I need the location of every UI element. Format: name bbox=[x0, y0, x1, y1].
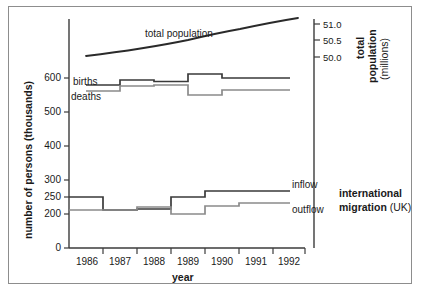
left-tick-600: 600 bbox=[35, 73, 61, 83]
annotation-migration-line1: international bbox=[339, 188, 402, 199]
bottom-axis-ticks bbox=[103, 248, 305, 254]
annotation-outflow: outflow bbox=[292, 205, 324, 215]
right-axis-ticks bbox=[314, 24, 320, 57]
right-tick-51-0: 51.0 bbox=[323, 20, 342, 30]
migration-word: migration bbox=[339, 201, 387, 213]
x-tick-1988: 1988 bbox=[139, 257, 169, 267]
left-tick-400: 400 bbox=[35, 141, 61, 151]
left-tick-250: 250 bbox=[35, 192, 61, 202]
annotation-deaths: deaths bbox=[71, 92, 101, 102]
annotation-inflow: inflow bbox=[292, 180, 318, 190]
chart-plot-area bbox=[9, 7, 413, 285]
series-inflow bbox=[69, 191, 290, 210]
x-tick-1990: 1990 bbox=[207, 257, 237, 267]
right-axis-title-line3: (millions) bbox=[379, 38, 390, 80]
x-tick-1991: 1991 bbox=[241, 257, 271, 267]
annotation-migration-line2: migration (UK) bbox=[339, 202, 411, 213]
x-tick-1992: 1992 bbox=[274, 257, 304, 267]
right-axis-title-line1: total bbox=[355, 37, 366, 59]
right-tick-50-0: 50.0 bbox=[323, 53, 342, 63]
left-tick-0: 0 bbox=[35, 243, 61, 253]
right-axis-title-line2: population bbox=[367, 29, 378, 83]
left-tick-500: 500 bbox=[35, 107, 61, 117]
left-axis-ticks bbox=[64, 78, 69, 248]
right-tick-50-5: 50.5 bbox=[323, 36, 342, 46]
left-axis-title: number of persons (thousands) bbox=[23, 81, 34, 239]
chart-figure: 600 500 400 300 250 200 0 number of pers… bbox=[8, 6, 412, 284]
annotation-total-population: total population bbox=[145, 29, 213, 39]
x-tick-1986: 1986 bbox=[72, 257, 102, 267]
x-axis-title: year bbox=[172, 272, 194, 283]
migration-country: (UK) bbox=[387, 201, 412, 213]
x-tick-1989: 1989 bbox=[173, 257, 203, 267]
series-deaths bbox=[86, 85, 290, 95]
series-births bbox=[86, 74, 290, 85]
x-tick-1987: 1987 bbox=[105, 257, 135, 267]
left-tick-300: 300 bbox=[35, 175, 61, 185]
left-tick-200: 200 bbox=[35, 209, 61, 219]
annotation-births: births bbox=[73, 77, 97, 87]
